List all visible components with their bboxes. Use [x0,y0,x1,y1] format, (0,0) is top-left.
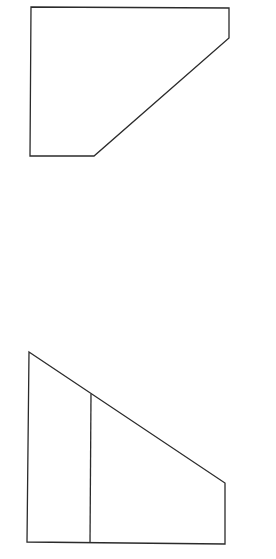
diagram-canvas [0,0,276,559]
front-view-trapezoid [27,352,225,544]
top-view-pentagon [30,7,229,156]
front-view-divider-line [90,394,91,543]
